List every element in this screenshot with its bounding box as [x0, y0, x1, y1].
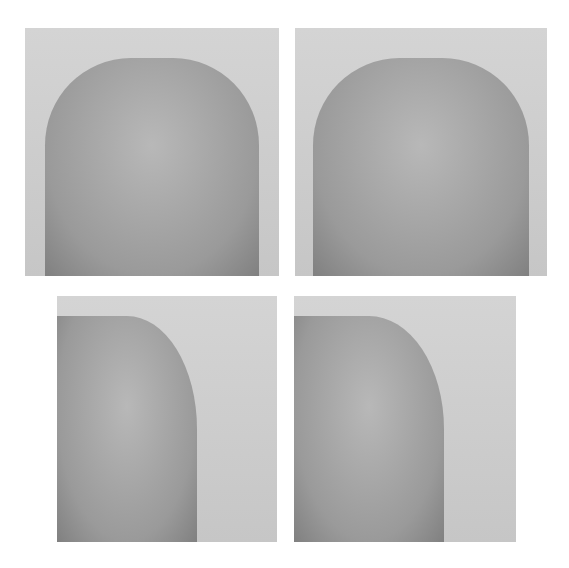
photo-lateral-after: [294, 296, 516, 542]
photo-frontal-after: [295, 28, 547, 276]
subject-silhouette: [45, 58, 259, 276]
photo-lateral-before: [57, 296, 277, 542]
photo-frontal-before: [25, 28, 279, 276]
subject-silhouette: [294, 316, 444, 542]
subject-silhouette: [57, 316, 197, 542]
subject-silhouette: [313, 58, 529, 276]
